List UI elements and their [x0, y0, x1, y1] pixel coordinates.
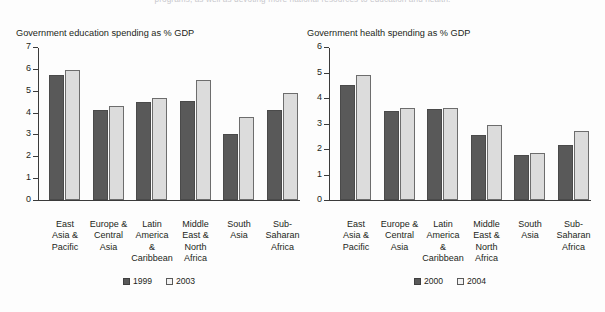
plot-area-education: 01234567 — [12, 44, 306, 219]
y-tick-mark — [33, 200, 38, 201]
y-tick-label: 2 — [26, 150, 31, 161]
y-tick-mark — [324, 73, 329, 74]
category-label: Sub-SaharanAfrica — [546, 219, 602, 253]
y-tick-mark — [324, 200, 329, 201]
y-tick-mark — [324, 124, 329, 125]
legend-label: 2000 — [424, 276, 443, 286]
legend-swatch-2004 — [457, 278, 464, 285]
clipped-caption-text: programs, as well as devoting more natio… — [0, 0, 605, 7]
y-tick-mark — [33, 113, 38, 114]
bar-1999-6[interactable] — [267, 110, 282, 200]
y-tick-education: 0 — [33, 200, 38, 201]
bar-2003-1[interactable] — [65, 70, 80, 200]
bar-group — [384, 48, 416, 200]
legend-health: 20002004 — [303, 276, 597, 286]
bar-2003-4[interactable] — [196, 80, 211, 200]
y-tick-label: 6 — [26, 63, 31, 74]
y-tick-label: 0 — [26, 194, 31, 205]
legend-item-1999[interactable]: 1999 — [123, 276, 152, 286]
category-label-line: Africa — [546, 242, 602, 253]
legend-label: 1999 — [133, 276, 152, 286]
y-tick-health: 2 — [324, 149, 329, 150]
y-tick-education: 1 — [33, 178, 38, 179]
y-tick-label: 2 — [317, 143, 322, 154]
category-label-line: North — [168, 242, 224, 253]
y-tick-mark — [324, 175, 329, 176]
y-tick-label: 3 — [317, 118, 322, 129]
bar-2003-2[interactable] — [109, 106, 124, 200]
bar-group — [180, 48, 212, 200]
legend-label: 2004 — [467, 276, 486, 286]
bar-2000-5[interactable] — [514, 155, 529, 200]
bar-2000-4[interactable] — [471, 135, 486, 200]
y-tick-mark — [33, 91, 38, 92]
bar-2004-6[interactable] — [574, 131, 589, 200]
legend-item-2003[interactable]: 2003 — [166, 276, 195, 286]
y-tick-label: 5 — [317, 67, 322, 78]
legend-label: 2003 — [176, 276, 195, 286]
y-tick-mark — [33, 178, 38, 179]
legend-swatch-2000 — [414, 278, 421, 285]
bar-group — [136, 48, 168, 200]
y-tick-label: 6 — [317, 41, 322, 52]
bar-2000-6[interactable] — [558, 145, 573, 200]
chart-title-education: Government education spending as % GDP — [16, 28, 194, 38]
y-tick-health: 4 — [324, 98, 329, 99]
chart-panel-health: Government health spending as % GDP 0123… — [303, 28, 597, 280]
y-tick-label: 1 — [26, 172, 31, 183]
bar-2004-3[interactable] — [443, 108, 458, 200]
y-tick-education: 7 — [33, 47, 38, 48]
legend-item-2004[interactable]: 2004 — [457, 276, 486, 286]
chart-title-health: Government health spending as % GDP — [307, 28, 470, 38]
y-tick-mark — [33, 69, 38, 70]
bar-2004-1[interactable] — [356, 75, 371, 200]
y-tick-label: 0 — [317, 194, 322, 205]
bar-2003-3[interactable] — [152, 98, 167, 200]
legend-item-2000[interactable]: 2000 — [414, 276, 443, 286]
x-axis-line-education — [38, 200, 300, 201]
bar-2000-2[interactable] — [384, 111, 399, 200]
bar-group — [223, 48, 255, 200]
y-tick-education: 3 — [33, 134, 38, 135]
bar-1999-2[interactable] — [93, 110, 108, 200]
y-tick-mark — [324, 98, 329, 99]
y-tick-label: 5 — [26, 85, 31, 96]
bar-2004-5[interactable] — [530, 153, 545, 200]
y-tick-health: 1 — [324, 175, 329, 176]
x-axis-category-labels-health: EastAsia &PacificEurope &CentralAsiaLati… — [330, 219, 591, 277]
legend-swatch-1999 — [123, 278, 130, 285]
bar-2003-5[interactable] — [239, 117, 254, 200]
bar-1999-4[interactable] — [180, 101, 195, 200]
bar-group — [93, 48, 125, 200]
category-label-line: Sub- — [546, 219, 602, 230]
category-label-line: Africa — [459, 253, 515, 264]
y-tick-label: 4 — [317, 92, 322, 103]
bar-2000-1[interactable] — [340, 85, 355, 200]
chart-panel-education: Government education spending as % GDP 0… — [12, 28, 306, 280]
bar-group — [514, 48, 546, 200]
y-tick-health: 0 — [324, 200, 329, 201]
x-axis-category-labels-education: EastAsia &PacificEurope &CentralAsiaLati… — [39, 219, 300, 277]
y-tick-mark — [33, 134, 38, 135]
bar-2000-3[interactable] — [427, 109, 442, 200]
y-tick-label: 7 — [26, 41, 31, 52]
category-label-line: Africa — [168, 253, 224, 264]
bar-series-health — [330, 48, 591, 200]
bar-2004-2[interactable] — [400, 108, 415, 200]
bar-1999-3[interactable] — [136, 102, 151, 200]
bar-group — [267, 48, 299, 200]
y-tick-mark — [324, 149, 329, 150]
y-tick-education: 5 — [33, 91, 38, 92]
figure-page: programs, as well as devoting more natio… — [0, 0, 605, 312]
y-tick-label: 1 — [317, 169, 322, 180]
bar-2004-4[interactable] — [487, 125, 502, 200]
y-tick-mark — [324, 47, 329, 48]
y-tick-mark — [33, 156, 38, 157]
bar-1999-1[interactable] — [49, 75, 64, 200]
bar-1999-5[interactable] — [223, 134, 238, 200]
plot-area-health: 0123456 — [303, 44, 597, 219]
y-tick-health: 5 — [324, 73, 329, 74]
legend-swatch-2003 — [166, 278, 173, 285]
category-label-line: North — [459, 242, 515, 253]
bar-2003-6[interactable] — [283, 93, 298, 200]
